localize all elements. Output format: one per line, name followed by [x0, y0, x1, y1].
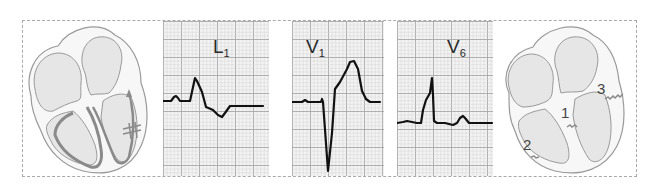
lead-subscript: 6: [460, 47, 466, 59]
marker-2: 2: [523, 137, 531, 152]
marker-1: 1: [561, 105, 569, 120]
lead-label-v1: V1: [306, 37, 325, 59]
lead-subscript: 1: [319, 47, 325, 59]
ecg-panel-v6: V6: [397, 21, 493, 176]
left-heart-diagram: [23, 21, 163, 176]
ecg-grid: [397, 21, 493, 176]
right-atrium: [508, 54, 553, 107]
ecg-figure: L1 V1 V6 1 2 3: [0, 0, 659, 191]
lead-subscript: 1: [224, 47, 230, 59]
ecg-panel-l1: L1: [163, 21, 269, 176]
lead-letter: L: [213, 36, 224, 57]
ecg-panel-v1: V1: [292, 21, 384, 176]
lead-letter: V: [306, 36, 319, 57]
right-heart-diagram: 1 2 3: [495, 21, 636, 176]
lead-label-l1: L1: [213, 37, 230, 59]
lead-label-v6: V6: [447, 37, 466, 59]
marker-3: 3: [597, 81, 605, 96]
lead-letter: V: [447, 36, 460, 57]
